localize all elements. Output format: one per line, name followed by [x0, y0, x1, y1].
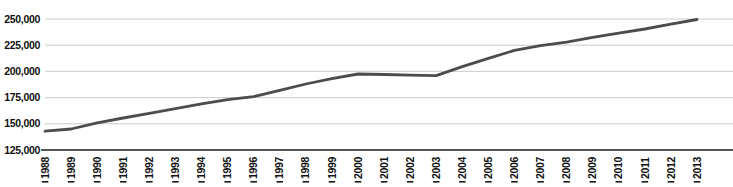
x-axis-tick-mark: [589, 181, 596, 183]
x-axis-tick-mark: [277, 181, 284, 183]
x-axis-tick-label: 1995: [221, 156, 233, 179]
x-axis-tick-mark: [511, 181, 518, 183]
x-axis-tick-label: 2000: [352, 156, 364, 179]
y-axis-tick-label: 150,000: [4, 117, 40, 129]
x-axis-tick-mark: [381, 181, 388, 183]
x-axis-tick-label: 2008: [560, 156, 572, 179]
x-axis-tick-label: 2001: [378, 156, 390, 179]
x-axis-tick-label: 2003: [430, 156, 442, 179]
y-axis-tick-label: 200,000: [4, 65, 40, 77]
x-axis-tick-mark: [94, 181, 101, 183]
x-axis-tick-label: 1988: [39, 156, 51, 179]
data-line: [45, 20, 697, 132]
x-axis-tick-mark: [172, 181, 179, 183]
y-axis-tick-label: 250,000: [4, 13, 40, 25]
x-axis-tick-mark: [120, 181, 127, 183]
x-axis-tick-mark: [433, 181, 440, 183]
x-axis-tick-mark: [303, 181, 310, 183]
x-axis-tick-mark: [407, 181, 414, 183]
x-axis-tick-mark: [694, 181, 701, 183]
x-axis-tick-label: 2002: [404, 156, 416, 179]
x-axis-tick-mark: [146, 181, 153, 183]
y-axis-tick-label: 125,000: [4, 144, 40, 156]
line-chart: 125,000150,000175,000200,000225,000250,0…: [0, 0, 733, 187]
x-axis-tick-label: 1997: [273, 156, 285, 179]
x-axis-tick-label: 2005: [482, 156, 494, 179]
x-axis-tick-mark: [42, 181, 49, 183]
x-axis-tick-mark: [537, 181, 544, 183]
x-axis-tick-label: 1996: [247, 156, 259, 179]
x-axis-tick-mark: [563, 181, 570, 183]
x-axis-tick-label: 1992: [143, 156, 155, 179]
chart-canvas: 125,000150,000175,000200,000225,000250,0…: [0, 0, 733, 187]
x-axis-tick-mark: [459, 181, 466, 183]
x-axis-tick-mark: [198, 181, 205, 183]
x-axis-tick-mark: [250, 181, 257, 183]
x-axis-tick-label: 2007: [534, 156, 546, 179]
x-axis-tick-mark: [329, 181, 336, 183]
x-axis-tick-label: 1999: [326, 156, 338, 179]
x-axis-tick-label: 1994: [195, 156, 207, 179]
x-axis-tick-label: 1998: [299, 156, 311, 179]
x-axis-tick-label: 2006: [508, 156, 520, 179]
x-axis-tick-mark: [68, 181, 75, 183]
x-axis-tick-label: 1989: [65, 156, 77, 179]
x-axis-tick-mark: [485, 181, 492, 183]
y-axis-tick-label: 175,000: [4, 91, 40, 103]
x-axis-tick-label: 1990: [91, 156, 103, 179]
x-axis-tick-label: 2011: [639, 157, 651, 179]
y-axis-tick-label: 225,000: [4, 39, 40, 51]
x-axis-tick-label: 2013: [691, 156, 703, 179]
x-axis-tick-label: 2012: [665, 156, 677, 179]
x-axis-tick-mark: [224, 181, 231, 183]
x-axis-tick-label: 2010: [612, 156, 624, 179]
x-axis-tick-label: 2004: [456, 156, 468, 179]
x-axis-tick-mark: [642, 181, 649, 183]
x-axis-tick-mark: [616, 181, 623, 183]
x-axis-tick-mark: [668, 181, 675, 183]
x-axis-tick-label: 1993: [169, 156, 181, 179]
x-axis-tick-label: 2009: [586, 156, 598, 179]
x-axis-tick-mark: [355, 181, 362, 183]
x-axis-tick-label: 1991: [117, 156, 129, 179]
